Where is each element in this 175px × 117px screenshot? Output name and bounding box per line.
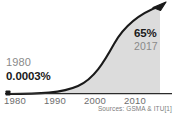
- x-tick-1980: 1980: [4, 95, 26, 106]
- end-point-callout: 65% 2017: [134, 27, 158, 52]
- chart-container: 1980 0.0003% 65% 2017 1980 1990 2000 201…: [0, 0, 175, 117]
- start-value-label: 0.0003%: [6, 70, 51, 82]
- source-attribution: Sources: GSMA & ITU[1]: [98, 106, 172, 113]
- x-tick-1990: 1990: [44, 95, 66, 106]
- end-year-label: 2017: [134, 41, 158, 52]
- end-value-label: 65%: [134, 27, 158, 39]
- start-point-callout: 1980 0.0003%: [6, 57, 51, 82]
- start-year-label: 1980: [6, 57, 51, 69]
